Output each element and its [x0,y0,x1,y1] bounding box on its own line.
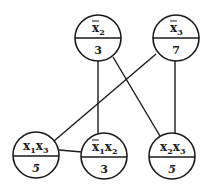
node-value: 3 [100,163,108,176]
graph-diagram: x2 3 x3 7 x1x3 5 x1x2 3 x2x3 5 [0,0,207,192]
edge-x1x3-x1barx2 [59,150,82,152]
node-x1barx2[interactable]: x1x2 3 [81,133,127,179]
edge-x2bar-x2x3 [113,57,160,136]
node-value: 5 [168,163,176,176]
node-x1x3[interactable]: x1x3 5 [13,132,59,178]
node-x3bar[interactable]: x3 7 [153,15,199,61]
node-value: 7 [172,44,180,57]
edge-x3bar-x1x3 [54,54,156,141]
node-x2x3[interactable]: x2x3 5 [149,133,195,179]
node-x2bar[interactable]: x2 3 [75,15,121,61]
node-value: 3 [94,44,102,57]
node-value: 5 [32,162,40,175]
